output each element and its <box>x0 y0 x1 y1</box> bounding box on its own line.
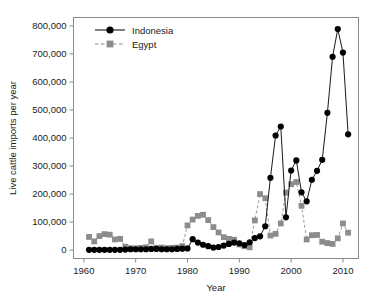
data-point <box>91 239 97 245</box>
data-point <box>262 195 268 201</box>
data-point <box>268 233 274 239</box>
data-point <box>345 230 351 236</box>
data-point <box>148 239 154 245</box>
data-point <box>293 157 299 163</box>
data-point <box>86 234 92 240</box>
data-point <box>283 190 289 196</box>
data-point <box>319 157 325 163</box>
data-point <box>314 168 320 174</box>
data-point <box>257 191 263 197</box>
data-point <box>293 179 299 185</box>
data-point <box>190 217 196 223</box>
data-point <box>185 223 191 229</box>
y-tick-label: 800,000 <box>32 20 66 31</box>
data-point <box>273 231 279 237</box>
y-axis-title: Live cattle imports per year <box>7 81 18 195</box>
y-tick-label: 300,000 <box>32 160 66 171</box>
data-point <box>247 239 253 245</box>
y-tick-label: 100,000 <box>32 216 66 227</box>
data-point <box>97 233 103 239</box>
data-point <box>211 224 217 230</box>
y-tick-label: 700,000 <box>32 48 66 59</box>
data-point <box>335 235 341 241</box>
data-point <box>231 239 237 245</box>
x-tick-label: 1970 <box>125 265 146 276</box>
data-point <box>314 232 320 238</box>
chart-background <box>0 0 372 305</box>
data-point <box>278 221 284 227</box>
y-tick-label: 0 <box>61 244 66 255</box>
y-tick-label: 400,000 <box>32 132 66 143</box>
legend-marker-egypt <box>107 41 114 48</box>
data-point <box>319 239 325 245</box>
x-tick-label: 1960 <box>73 265 94 276</box>
data-point <box>216 230 222 236</box>
chart-figure: 0100,000200,000300,000400,000500,000600,… <box>0 0 372 305</box>
data-point <box>117 236 123 242</box>
data-point <box>340 49 346 55</box>
data-point <box>309 232 315 238</box>
data-point <box>195 213 201 219</box>
data-point <box>252 217 258 223</box>
data-point <box>340 221 346 227</box>
data-point <box>324 110 330 116</box>
data-point <box>304 198 310 204</box>
data-point <box>330 241 336 247</box>
legend-label-egypt: Egypt <box>132 39 157 50</box>
data-point <box>283 214 289 220</box>
y-tick-label: 200,000 <box>32 188 66 199</box>
data-point <box>200 242 206 248</box>
data-point <box>190 236 196 242</box>
data-point <box>205 243 211 249</box>
x-axis-title: Year <box>206 282 225 293</box>
data-point <box>184 245 190 251</box>
data-point <box>262 223 268 229</box>
data-point <box>102 231 108 237</box>
data-point <box>205 217 211 223</box>
data-point <box>226 241 232 247</box>
x-tick-label: 2000 <box>281 265 302 276</box>
data-point <box>215 244 221 250</box>
data-point <box>221 234 227 240</box>
x-tick-label: 2010 <box>332 265 353 276</box>
data-point <box>257 233 263 239</box>
data-point <box>298 189 304 195</box>
data-point <box>309 177 315 183</box>
data-point <box>299 203 305 209</box>
data-point <box>325 240 331 246</box>
x-tick-label: 1980 <box>177 265 198 276</box>
data-point <box>335 26 341 32</box>
line-chart: 0100,000200,000300,000400,000500,000600,… <box>0 0 372 305</box>
y-tick-label: 600,000 <box>32 76 66 87</box>
data-point <box>329 54 335 60</box>
x-tick-label: 1990 <box>229 265 250 276</box>
data-point <box>267 175 273 181</box>
data-point <box>288 167 294 173</box>
data-point <box>278 123 284 129</box>
data-point <box>107 232 113 238</box>
data-point <box>345 131 351 137</box>
y-tick-label: 500,000 <box>32 104 66 115</box>
legend-label-indonesia: Indonesia <box>132 25 174 36</box>
data-point <box>200 212 206 218</box>
data-point <box>304 237 310 243</box>
data-point <box>112 237 118 243</box>
data-point <box>272 132 278 138</box>
legend-marker-indonesia <box>106 26 113 33</box>
